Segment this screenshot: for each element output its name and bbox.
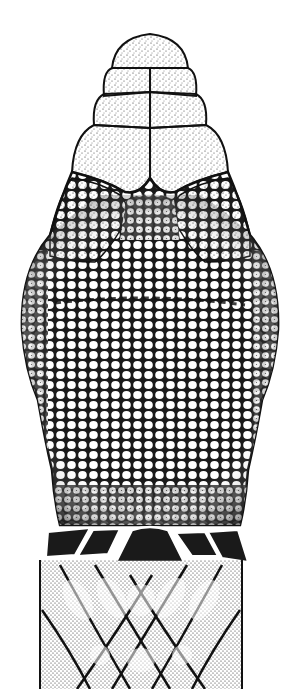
rostral-scale (112, 34, 188, 68)
neck-center-triangle (116, 527, 184, 562)
prefrontal-right (150, 92, 206, 128)
neck-band (46, 527, 248, 562)
body-crossbands (40, 560, 242, 689)
prefrontal-left (94, 92, 150, 128)
crown-and-neck (0, 172, 300, 535)
head-shields (72, 34, 228, 192)
snake-head-illustration (0, 0, 300, 689)
